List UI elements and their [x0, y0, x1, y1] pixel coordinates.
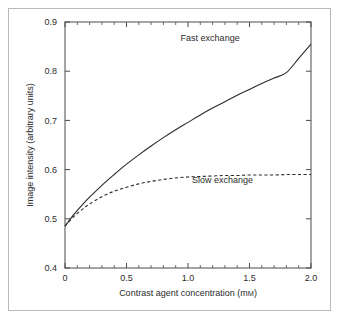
x-axis-tick-labels: 00.51.01.52.0 — [62, 273, 317, 283]
y-axis-tick-labels: 0.40.50.60.70.80.9 — [44, 17, 57, 273]
y-tick-label: 0.5 — [44, 214, 57, 224]
annotation-fast-exchange: Fast exchange — [181, 33, 240, 43]
annotation-slow-exchange: Slow exchange — [192, 175, 253, 185]
x-tick-label: 0 — [62, 273, 67, 283]
y-tick-label: 0.6 — [44, 165, 57, 175]
x-tick-label: 1.0 — [182, 273, 195, 283]
axis-frame — [65, 22, 311, 268]
chart-plot: 00.51.01.52.0 0.40.50.60.70.80.9 Fast ex… — [0, 0, 341, 320]
y-tick-label: 0.4 — [44, 263, 57, 273]
x-axis-ticks — [65, 22, 311, 268]
x-tick-label: 1.5 — [243, 273, 256, 283]
x-tick-label: 2.0 — [305, 273, 318, 283]
y-axis-ticks — [65, 22, 311, 268]
curve-fast-exchange — [65, 44, 311, 226]
y-tick-label: 0.9 — [44, 17, 57, 27]
figure-canvas: 00.51.01.52.0 0.40.50.60.70.80.9 Fast ex… — [0, 0, 341, 320]
axis-box — [65, 22, 311, 268]
y-tick-label: 0.7 — [44, 116, 57, 126]
curve-slow-exchange — [65, 174, 311, 226]
x-axis-title: Contrast agent concentration (mM) — [119, 288, 257, 298]
y-axis-title: Image intensity (arbitrary units) — [25, 83, 35, 207]
data-curves — [65, 44, 311, 226]
x-tick-label: 0.5 — [120, 273, 133, 283]
y-tick-label: 0.8 — [44, 66, 57, 76]
series-annotations: Fast exchangeSlow exchange — [181, 33, 253, 186]
